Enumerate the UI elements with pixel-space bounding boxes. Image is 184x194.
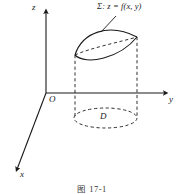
x-axis-label: x (20, 170, 24, 179)
origin-label: O (49, 95, 56, 104)
figure-caption: 图 17-1 (0, 182, 184, 194)
figure-container: z y x O D Σ: z = f(x, y) 图 17-1 (0, 0, 184, 194)
y-axis-label: y (169, 95, 173, 104)
surface-top-edge (75, 30, 137, 55)
x-axis (18, 93, 47, 168)
surface-equation-label: Σ: z = f(x, y) (97, 2, 142, 11)
figure-drawing (0, 0, 184, 194)
z-axis-label: z (32, 3, 36, 12)
region-d-label: D (100, 112, 107, 121)
